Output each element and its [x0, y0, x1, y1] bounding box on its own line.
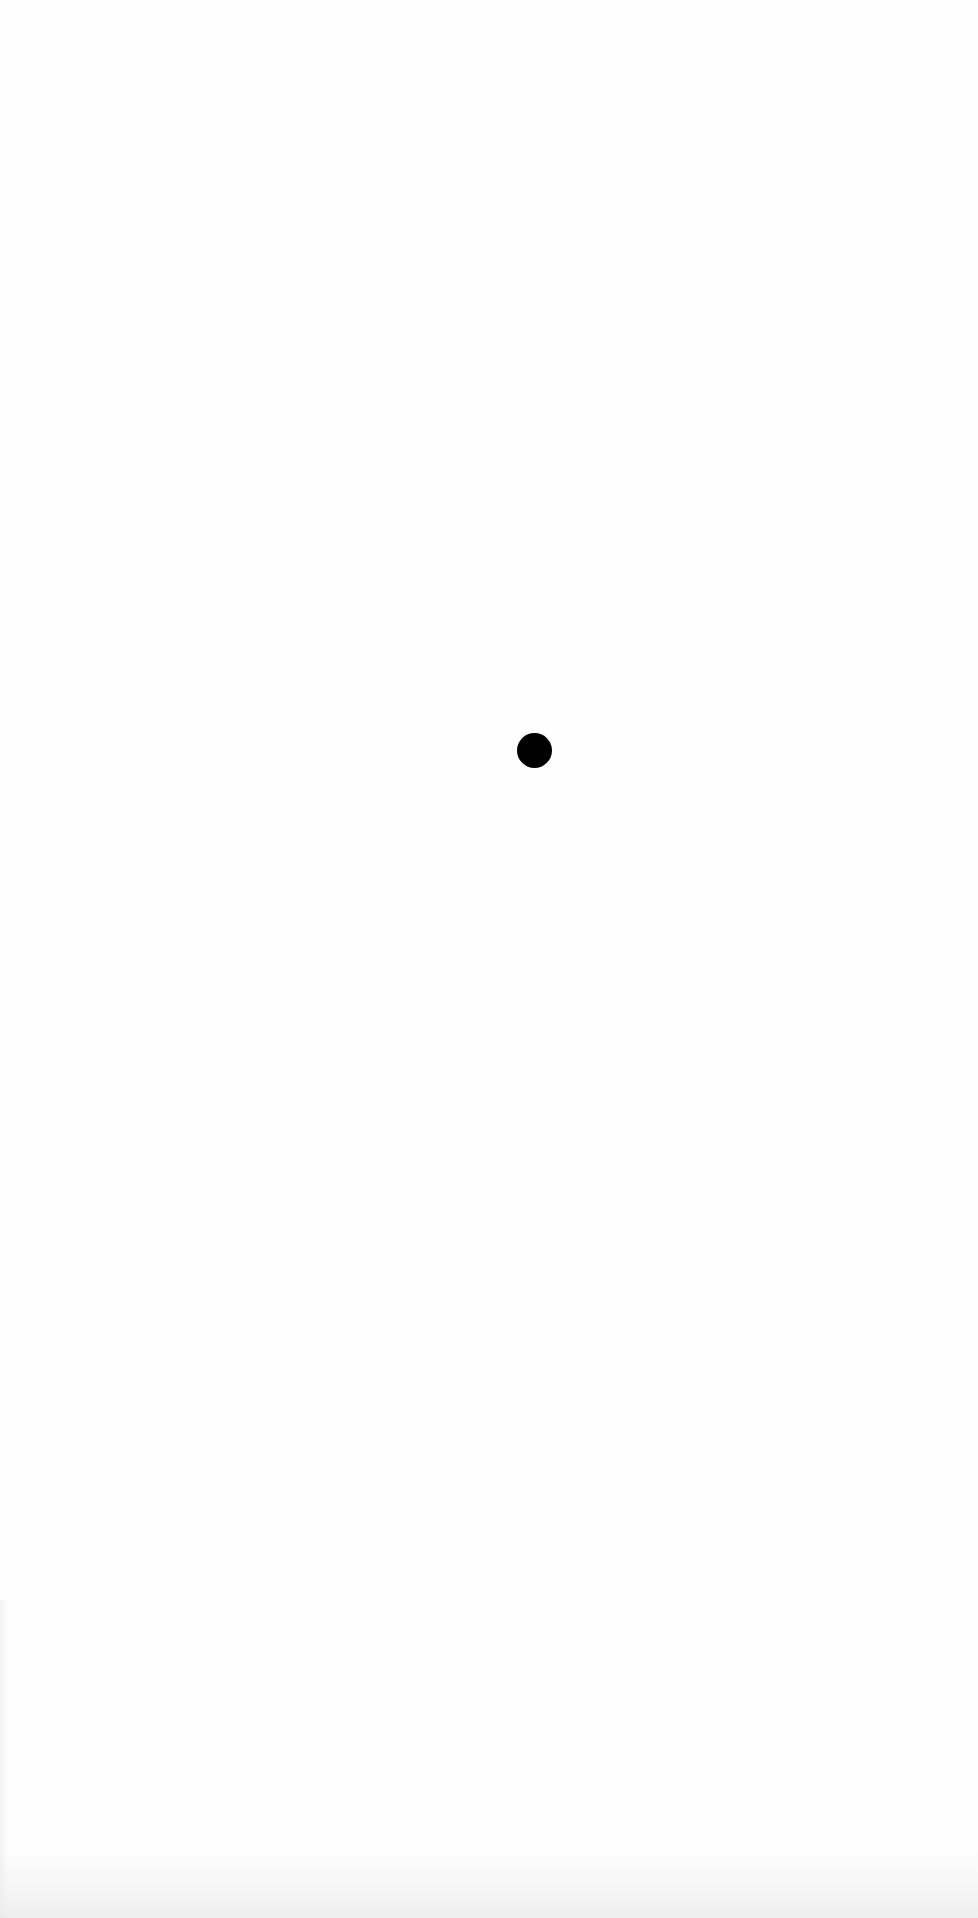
scan-edge-artifact	[0, 1600, 8, 1918]
scan-noise-artifact	[0, 1848, 978, 1918]
black-dot	[517, 733, 552, 768]
blank-page	[0, 0, 978, 1918]
